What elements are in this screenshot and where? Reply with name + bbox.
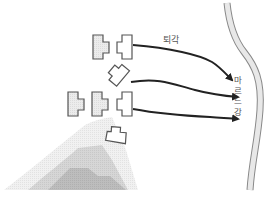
river-label-char: 마: [233, 75, 243, 86]
unit-top-right: [117, 35, 132, 59]
arrow-middle: [131, 80, 238, 97]
unit-mid-2: [92, 92, 108, 116]
arrow-bottom: [133, 109, 238, 119]
unit-rotated: [105, 61, 129, 86]
unit-mid-1: [68, 92, 84, 116]
river-label-char: 느: [233, 96, 243, 107]
unit-mid-3: [117, 92, 132, 116]
unit-top-left: [93, 35, 109, 59]
river-label: 마 르 느 강: [233, 75, 243, 117]
arrow-top: [133, 45, 232, 80]
retreat-arrows: [131, 45, 238, 119]
retreat-label: 퇴각: [163, 36, 179, 45]
river-label-char: 르: [233, 86, 243, 97]
battle-map: [0, 0, 269, 197]
river-label-char: 강: [233, 107, 243, 118]
